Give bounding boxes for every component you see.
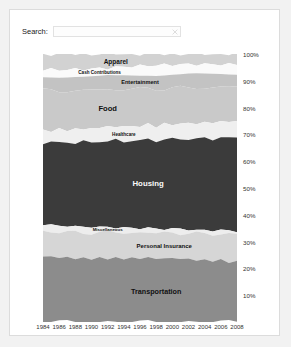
search-row: Search: <box>22 26 181 37</box>
chart-card: Search: ApparelCash ContributionsEnterta… <box>9 9 280 336</box>
x-axis-tick: 1984 <box>36 324 49 330</box>
x-axis-tick: 1986 <box>52 324 65 330</box>
area-band <box>43 230 237 263</box>
y-axis-tick: 80% <box>243 104 255 111</box>
y-axis-tick: 30% <box>243 238 255 245</box>
x-axis-tick: 1994 <box>117 324 130 330</box>
search-field[interactable] <box>53 26 181 37</box>
y-axis-tick: 40% <box>243 211 255 218</box>
search-input[interactable] <box>56 27 168 36</box>
area-bands <box>43 54 237 322</box>
clear-icon[interactable] <box>172 29 178 35</box>
y-axis-tick: 90% <box>243 77 255 84</box>
x-axis-tick: 2002 <box>182 324 195 330</box>
y-axis-tick: 10% <box>243 292 255 299</box>
x-axis-tick: 1998 <box>149 324 162 330</box>
y-axis-tick: 50% <box>243 185 255 192</box>
plot-area: ApparelCash ContributionsEntertainmentFo… <box>43 54 237 322</box>
x-axis-tick: 1996 <box>133 324 146 330</box>
search-label: Search: <box>22 27 48 36</box>
y-axis-tick: 20% <box>243 265 255 272</box>
stacked-area-chart: ApparelCash ContributionsEntertainmentFo… <box>34 54 272 342</box>
x-axis-tick: 1988 <box>69 324 82 330</box>
y-axis-tick: 100% <box>243 51 259 58</box>
x-axis: 1984198619881990199219941996199820002002… <box>34 324 240 336</box>
area-band <box>43 137 237 232</box>
x-axis-tick: 2006 <box>214 324 227 330</box>
x-axis-tick: 2000 <box>166 324 179 330</box>
y-axis-tick: 60% <box>243 158 255 165</box>
y-axis: 100%90%80%70%60%50%40%30%20%10% <box>243 54 273 322</box>
x-axis-tick: 2008 <box>230 324 243 330</box>
x-axis-tick: 1990 <box>85 324 98 330</box>
area-band <box>43 256 237 322</box>
x-axis-tick: 2004 <box>198 324 211 330</box>
y-axis-tick: 70% <box>243 131 255 138</box>
x-axis-tick: 1992 <box>101 324 114 330</box>
